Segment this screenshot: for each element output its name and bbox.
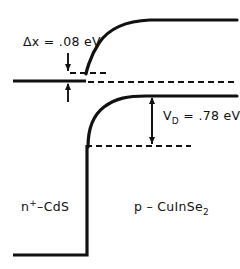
conduction-band-p-side: [86, 20, 237, 74]
left-material-prefix: n: [21, 199, 29, 214]
conduction-band-offset-label: Δx = .08 eV: [23, 36, 101, 49]
vd-unit: eV: [219, 108, 240, 123]
right-material-prefix: p – CuInSe: [134, 199, 203, 214]
left-material-label: n+–CdS: [21, 201, 69, 214]
vd-symbol: V: [163, 108, 172, 123]
vd-value: .78: [198, 108, 219, 123]
right-material-label: p – CuInSe2: [134, 201, 209, 214]
band-diagram-figure: Δx = .08 eV VD = .78 eV n+–CdS p – CuInS…: [0, 0, 240, 269]
vd-subscript: D: [172, 116, 179, 126]
left-material-suffix: –CdS: [37, 199, 69, 214]
diffusion-voltage-label: VD = .78 eV: [163, 110, 240, 123]
vd-equals: =: [179, 108, 198, 123]
left-material-superscript: +: [29, 198, 37, 208]
right-material-subscript: 2: [203, 207, 209, 217]
